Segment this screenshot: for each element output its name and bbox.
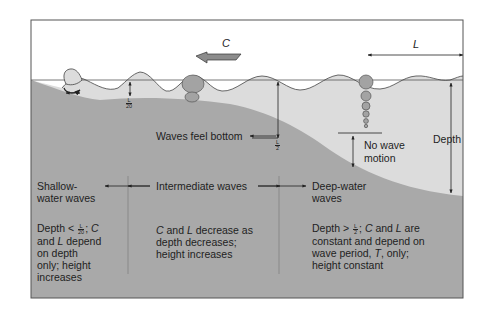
celerity-label: C [222, 37, 230, 49]
wave-zones-diagram: C L Depth L 20 L 2 Waves feel bottom No … [0, 0, 488, 312]
shallow-limit-fraction: L 20 [126, 98, 132, 109]
orbit-ellipse-lower [185, 92, 199, 102]
wavelength-label: L [413, 38, 419, 50]
orbit-circle-1 [359, 75, 373, 89]
depth-label: Depth [433, 133, 461, 145]
deep-zone-title: Deep-water waves [312, 180, 366, 204]
shallow-zone-description: Depth < L20; C and L depend on depth onl… [37, 222, 101, 283]
orbit-ellipse-upper [182, 75, 204, 93]
deep-limit-fraction: L 2 [275, 140, 280, 151]
orbit-circle-4 [363, 111, 369, 117]
orbit-circle-6 [364, 124, 367, 127]
no-wave-motion-label: No wave motion [364, 139, 405, 165]
shallow-zone-title: Shallow- water waves [37, 180, 95, 204]
orbit-circle-5 [364, 119, 369, 124]
orbit-circle-2 [361, 91, 371, 101]
orbit-circle-3 [362, 102, 370, 110]
waves-feel-bottom-label: Waves feel bottom [156, 130, 243, 142]
intermediate-zone-title: Intermediate waves [156, 180, 247, 192]
intermediate-zone-description: C and L decrease as depth decreases; hei… [156, 224, 253, 260]
deep-zone-description: Depth > L2; C and L are constant and dep… [312, 222, 425, 271]
